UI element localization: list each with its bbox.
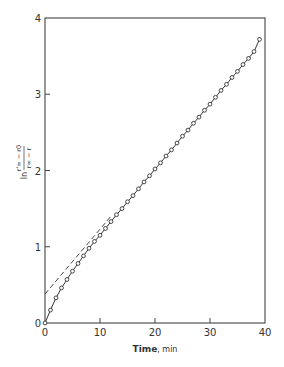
data-point-marker [181,134,185,138]
x-tick-label: 10 [94,327,107,338]
data-series [43,37,261,324]
data-point-marker [159,161,163,165]
data-point-marker [153,167,157,171]
data-point-marker [241,63,245,67]
data-point-marker [142,180,146,184]
axis-ticks: 01234010203040 [35,13,272,338]
data-line [45,39,260,323]
data-point-marker [82,254,86,258]
x-tick-label: 20 [149,327,162,338]
data-point-marker [43,321,47,325]
data-point-marker [225,82,229,86]
data-point-marker [76,262,80,266]
data-point-marker [175,141,179,145]
y-label-numerator: r'∞ − r0 [15,145,23,171]
data-point-marker [104,227,108,231]
y-label-ln: ln [20,172,29,179]
data-point-marker [54,296,58,300]
y-tick-label: 2 [35,166,41,177]
data-point-marker [197,115,201,119]
data-point-marker [214,95,218,99]
data-point-marker [60,286,64,290]
data-point-marker [71,269,75,273]
data-point-marker [131,194,135,198]
data-point-marker [203,108,207,112]
data-point-marker [137,187,141,191]
data-point-marker [120,207,124,211]
y-axis-label: lnr'∞ − r0r∞ − r [15,145,33,179]
data-point-marker [93,240,97,244]
dashed-extrapolation-line [45,216,111,294]
y-tick-label: 4 [35,13,41,24]
data-point-marker [126,200,130,204]
x-tick-label: 30 [204,327,217,338]
data-point-marker [164,154,168,158]
data-point-marker [170,148,174,152]
data-point-marker [192,121,196,125]
chart: 01234010203040 Time, minlnr'∞ − r0r∞ − r [0,0,284,367]
data-point-marker [252,50,256,54]
data-point-marker [236,69,240,73]
y-tick-label: 0 [35,318,41,329]
x-tick-label: 0 [42,327,48,338]
data-point-marker [109,220,113,224]
y-tick-label: 1 [35,242,41,253]
data-point-marker [98,233,102,237]
x-axis-label: Time, min [133,344,178,354]
data-point-marker [230,76,234,80]
data-point-marker [208,102,212,106]
data-point-marker [115,213,119,217]
data-point-marker [258,37,262,41]
data-point-marker [49,308,53,312]
data-point-marker [65,278,69,282]
x-tick-label: 40 [259,327,272,338]
data-point-marker [186,128,190,132]
dashed-line [45,216,111,294]
data-point-marker [219,89,223,93]
data-point-marker [148,174,152,178]
data-point-marker [247,57,251,61]
y-label-denominator: r∞ − r [25,148,33,169]
y-tick-label: 3 [35,89,41,100]
data-point-marker [87,246,91,250]
